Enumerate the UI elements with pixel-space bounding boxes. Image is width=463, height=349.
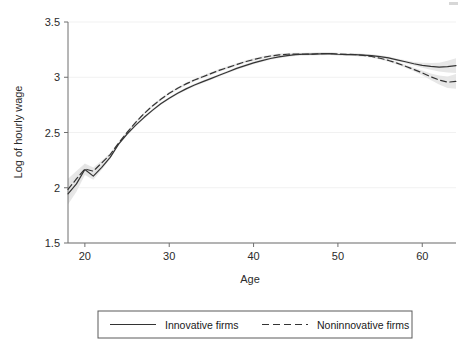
x-tick-label-50: 50 xyxy=(332,250,344,262)
scan-artifact xyxy=(449,2,458,5)
x-tick-label-30: 30 xyxy=(163,250,175,262)
legend-label-noninnovative-firms: Noninnovative firms xyxy=(317,319,409,331)
x-tick-label-20: 20 xyxy=(79,250,91,262)
chart-legend: Innovative firms Noninnovative firms xyxy=(98,311,412,338)
legend-label-innovative-firms: Innovative firms xyxy=(165,319,239,331)
x-tick-label-60: 60 xyxy=(416,250,428,262)
chart-figure: 1.522.533.5 2030405060 Log of hourly wag… xyxy=(0,0,463,349)
chart-background xyxy=(0,0,463,349)
y-tick-label-2.5: 2.5 xyxy=(45,127,60,139)
y-tick-label-1.5: 1.5 xyxy=(45,237,60,249)
chart-canvas: 1.522.533.5 2030405060 Log of hourly wag… xyxy=(0,0,463,349)
x-tick-label-40: 40 xyxy=(247,250,259,262)
x-axis-title: Age xyxy=(240,273,260,285)
y-tick-label-3: 3 xyxy=(54,71,60,83)
y-tick-label-3.5: 3.5 xyxy=(45,16,60,28)
y-tick-label-2: 2 xyxy=(54,182,60,194)
y-axis-title: Log of hourly wage xyxy=(12,86,24,179)
